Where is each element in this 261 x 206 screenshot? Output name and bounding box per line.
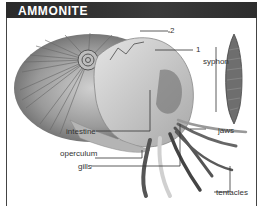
label-operculum: operculum: [60, 149, 97, 158]
label-jaws: jaws: [218, 126, 234, 135]
label-2: 2: [170, 26, 174, 35]
side-view-shell-icon: [226, 34, 242, 124]
label-syphon: syphon: [203, 57, 229, 66]
label-1: 1: [196, 45, 200, 54]
label-tentacles: tentacles: [216, 188, 248, 197]
label-gills: gills: [78, 162, 92, 171]
ammonite-illustration: [0, 0, 261, 206]
label-intestine: intestine: [66, 127, 96, 136]
